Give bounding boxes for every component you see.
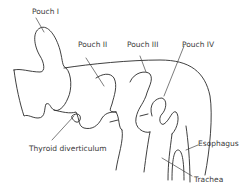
label-pouch-2: Pouch II [78,41,107,49]
leader-esophagus [186,145,198,150]
leader-trachea [162,158,192,176]
pouch-3-connector [140,114,148,116]
leader-pouch-2 [86,58,104,86]
pouch-3-outline [130,72,151,132]
pouch-2-connector [110,120,118,122]
label-pouch-1: Pouch I [32,8,59,16]
floor-left [54,110,116,129]
leader-pouch-4 [164,46,184,96]
pouch-1-outline [14,27,71,118]
pouch-4-outline [151,98,178,134]
label-esophagus: Esophagus [198,140,239,148]
label-thyroid-diverticulum: Thyroid diverticulum [29,145,107,153]
pouch-2-outline [96,74,116,112]
pouch-4-side [144,132,172,180]
label-trachea: Trachea [194,176,223,184]
thyroid-diverticulum-outline [72,114,80,122]
label-pouch-3: Pouch III [127,41,159,49]
pharynx-outline-drawing [0,0,245,187]
label-pouch-4: Pouch IV [182,41,214,49]
pharyngeal-pouch-diagram: Pouch I Pouch II Pouch III Pouch IV Thyr… [0,0,245,187]
leader-thyroid [52,116,74,140]
leader-pouch-3 [140,56,146,72]
